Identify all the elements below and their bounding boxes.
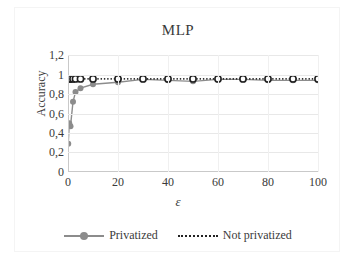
gridline-vertical [318,55,319,172]
x-tick-label: 40 [148,175,188,190]
y-tick-label: 1 [18,67,64,82]
plot-area [68,55,318,172]
gridline-horizontal [68,133,318,134]
legend-label: Not privatized [223,228,292,243]
x-axis-label: ε [0,194,356,210]
gridline-vertical [118,55,119,172]
chart-figure: MLP Accuracy 0 0,2 0,4 0,6 0,8 1 1,2 0 2… [0,0,356,268]
gridline-horizontal [68,114,318,115]
legend-label: Privatized [109,228,158,243]
gridline-horizontal [68,94,318,95]
legend-item-not-privatized[interactable]: Not privatized [178,228,292,243]
gridline-vertical [268,55,269,172]
y-tick-label: 0,2 [18,145,64,160]
x-tick-label: 100 [298,175,338,190]
x-tick-label: 80 [248,175,288,190]
y-tick-label: 0,6 [18,106,64,121]
gridline-horizontal [68,152,318,153]
y-tick-label: 0,4 [18,126,64,141]
chart-legend: Privatized Not privatized [0,228,356,243]
x-tick-label: 60 [198,175,238,190]
x-axis-ticks: 0 20 40 60 80 100 [68,175,318,193]
legend-key-solid-line-icon [64,230,104,242]
y-tick-label: 1,2 [18,48,64,63]
x-tick-label: 20 [98,175,138,190]
x-tick-label: 0 [48,175,88,190]
chart-title: MLP [0,22,356,39]
gridline-vertical [168,55,169,172]
gridline-vertical [218,55,219,172]
y-tick-label: 0,8 [18,86,64,101]
y-axis-ticks: 0 0,2 0,4 0,6 0,8 1 1,2 [14,55,64,172]
gridline-horizontal [68,55,318,56]
legend-item-privatized[interactable]: Privatized [64,228,158,243]
gridline-horizontal [68,75,318,76]
legend-key-dotted-line-icon [178,230,218,242]
